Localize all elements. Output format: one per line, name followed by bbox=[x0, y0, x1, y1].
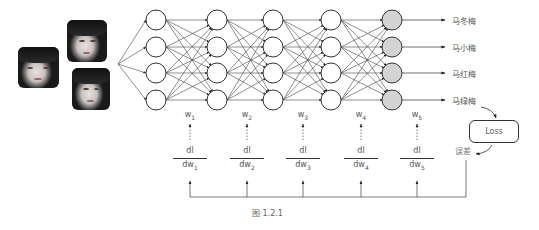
weight-edge bbox=[227, 47, 266, 68]
neuron-nodes bbox=[146, 10, 402, 110]
neuron bbox=[263, 90, 283, 110]
weight-edge bbox=[227, 28, 269, 100]
gradient-fraction-2: dl dw2 bbox=[230, 146, 264, 170]
weight-label-4: w4 bbox=[356, 110, 366, 121]
neuron bbox=[321, 90, 341, 110]
weight-sub: 2 bbox=[248, 114, 252, 121]
weight-edge bbox=[283, 20, 324, 42]
gradient-denominator: dw2 bbox=[230, 160, 264, 170]
output-label-3: 马红梅 bbox=[452, 68, 476, 79]
weight-label-3: w3 bbox=[298, 110, 308, 121]
gradient-fraction-4: dl dw4 bbox=[344, 146, 378, 170]
output-label-2: 马小梅 bbox=[452, 42, 476, 53]
weight-edge bbox=[227, 54, 268, 100]
weight-label-1: w1 bbox=[185, 110, 195, 121]
fraction-bar bbox=[173, 158, 207, 159]
output-neuron bbox=[382, 90, 402, 110]
gradient-numerator: dl bbox=[230, 146, 264, 156]
neuron bbox=[207, 37, 227, 57]
weight-edge bbox=[227, 78, 266, 100]
gradient-numerator: dl bbox=[173, 146, 207, 156]
neuron bbox=[146, 90, 166, 110]
output-neuron bbox=[382, 37, 402, 57]
gradient-denominator: dw1 bbox=[173, 160, 207, 170]
to-loss-arrow bbox=[481, 107, 496, 118]
loss-label: Loss bbox=[485, 127, 503, 136]
input-edge bbox=[118, 20, 146, 64]
neuron bbox=[207, 90, 227, 110]
gradient-fraction-1: dl dw1 bbox=[173, 146, 207, 170]
connection-lines bbox=[118, 20, 445, 100]
weight-edge bbox=[283, 47, 324, 68]
den-base: dw bbox=[239, 160, 251, 169]
gradient-denominator: dw3 bbox=[286, 160, 320, 170]
weight-edge bbox=[341, 20, 386, 66]
neural-network-diagram bbox=[0, 0, 539, 230]
den-base: dw bbox=[353, 160, 365, 169]
neuron bbox=[321, 10, 341, 30]
weight-edge bbox=[341, 28, 388, 100]
fraction-bar bbox=[344, 158, 378, 159]
weight-sub: 4 bbox=[362, 114, 366, 121]
weight-edge bbox=[341, 78, 384, 100]
output-neuron bbox=[382, 63, 402, 83]
output-neuron bbox=[382, 10, 402, 30]
weight-sub: 3 bbox=[304, 114, 308, 121]
weight-edge bbox=[341, 20, 388, 92]
input-edge bbox=[118, 47, 146, 64]
figure-caption: 图 1.2.1 bbox=[252, 207, 283, 218]
neuron bbox=[146, 10, 166, 30]
gradient-fraction-3: dl dw3 bbox=[286, 146, 320, 170]
neuron bbox=[146, 37, 166, 57]
weight-edge bbox=[341, 20, 384, 42]
neuron bbox=[207, 10, 227, 30]
weight-edge bbox=[166, 28, 213, 100]
weight-edge bbox=[283, 52, 324, 73]
weight-edge bbox=[283, 78, 324, 100]
weight-edge bbox=[166, 20, 211, 66]
gradient-numerator: dl bbox=[400, 146, 434, 156]
neuron bbox=[321, 37, 341, 57]
weight-sub: 1 bbox=[191, 114, 195, 121]
neuron bbox=[321, 63, 341, 83]
output-label-1: 马冬梅 bbox=[452, 15, 476, 26]
gradient-fraction-5: dl dw5 bbox=[400, 146, 434, 170]
weight-edge bbox=[283, 20, 327, 92]
weight-edge bbox=[227, 20, 268, 66]
weight-edge bbox=[166, 20, 213, 92]
den-sub: 5 bbox=[421, 164, 425, 171]
neuron bbox=[263, 37, 283, 57]
weight-edge bbox=[227, 52, 266, 73]
den-base: dw bbox=[182, 160, 194, 169]
weight-edge bbox=[166, 78, 209, 100]
den-sub: 1 bbox=[194, 164, 198, 171]
gradient-denominator: dw4 bbox=[344, 160, 378, 170]
weight-label-5: w5 bbox=[412, 110, 422, 121]
fraction-bar bbox=[286, 158, 320, 159]
den-base: dw bbox=[409, 160, 421, 169]
weight-edge bbox=[283, 28, 327, 100]
to-error-arrow bbox=[476, 145, 492, 154]
neuron bbox=[146, 63, 166, 83]
fraction-bar bbox=[400, 158, 434, 159]
weight-edge bbox=[166, 20, 209, 42]
neuron bbox=[207, 63, 227, 83]
neuron bbox=[263, 63, 283, 83]
gradient-denominator: dw5 bbox=[400, 160, 434, 170]
den-base: dw bbox=[295, 160, 307, 169]
gradient-numerator: dl bbox=[286, 146, 320, 156]
weight-sub: 5 bbox=[418, 114, 422, 121]
den-sub: 4 bbox=[365, 164, 369, 171]
weight-edge bbox=[166, 54, 211, 100]
gradient-numerator: dl bbox=[344, 146, 378, 156]
neuron bbox=[263, 10, 283, 30]
weight-edge bbox=[227, 20, 269, 92]
fraction-bar bbox=[230, 158, 264, 159]
weight-edge bbox=[227, 20, 266, 42]
weight-edge bbox=[341, 54, 386, 100]
weight-edge bbox=[283, 54, 326, 100]
weight-edge bbox=[283, 20, 326, 66]
weight-label-2: w2 bbox=[242, 110, 252, 121]
input-edge bbox=[118, 64, 146, 100]
input-edge bbox=[118, 64, 146, 73]
